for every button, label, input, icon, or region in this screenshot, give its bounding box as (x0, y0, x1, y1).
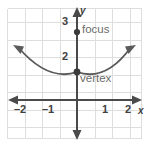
y-axis-label: y (80, 6, 86, 16)
x-axis (8, 96, 142, 105)
y-tick-label-2: 2 (62, 51, 68, 62)
y-tick-label-3: 3 (62, 16, 68, 27)
focus-label: focus (82, 24, 110, 36)
plot-canvas (0, 0, 149, 146)
x-axis-label: x (138, 106, 144, 116)
parabola-figure: –2 –1 1 2 2 3 x y focus vertex (0, 0, 149, 146)
x-tick-label-2: 2 (125, 104, 131, 115)
x-tick-label-1: 1 (102, 104, 108, 115)
focus-point-marker (74, 29, 80, 35)
vertex-label: vertex (80, 73, 111, 85)
x-tick-label-neg1: –1 (42, 104, 54, 115)
x-tick-label-neg2: –2 (14, 104, 26, 115)
